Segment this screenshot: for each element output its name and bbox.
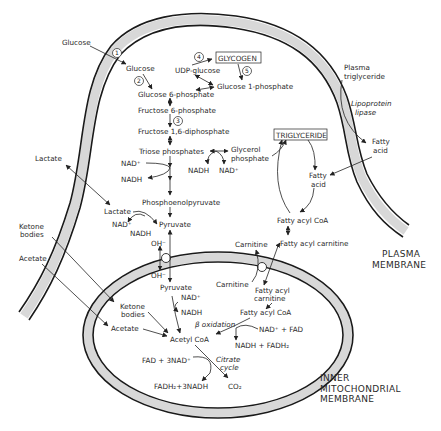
fatty-acid-line2: acid — [311, 180, 326, 189]
oh-top: OH⁻ — [151, 239, 166, 248]
acetyl-coa: Acetyl CoA — [170, 335, 209, 344]
inner-mito-label-line3: MEMBRANE — [320, 394, 374, 404]
nadh-lactate: NADH — [130, 229, 151, 238]
nad-lactate: NAD⁺ — [112, 220, 132, 229]
triglyceride-label: TRIGLYCERIDE — [275, 131, 327, 140]
fad-3nad: FAD + 3NAD⁺ — [142, 356, 191, 365]
co2: CO₂ — [228, 382, 242, 391]
fatty-acid-line1: Fatty — [309, 171, 328, 180]
lactate: Lactate — [104, 207, 131, 216]
inner-mito-label-line1: INNER — [320, 373, 350, 383]
oh-transporter-pore — [162, 254, 171, 263]
metabolism-diagram: 1 2 3 4 5 Glucose Glucose Glucose 6-phos… — [0, 0, 441, 431]
nad-fad: NAD⁺ + FAD — [259, 325, 304, 334]
glycerol-phosphate-line1: Glycerol — [231, 145, 260, 154]
step-3-marker: 3 — [174, 117, 183, 126]
carnitine-transporter-pore — [258, 263, 267, 272]
svg-text:4: 4 — [197, 53, 201, 60]
fadh2-3nadh: FADH₂+3NADH — [154, 382, 208, 391]
phosphoenolpyruvate: Phosphoenolpyruvate — [142, 198, 221, 207]
nad-triose: NAD⁺ — [121, 159, 141, 168]
plasma-triglyceride-line1: Plasma — [344, 63, 370, 72]
glucose-1-phosphate: Glucose 1-phosphate — [217, 82, 294, 91]
ketone-bodies-mito-line2: bodies — [121, 310, 145, 319]
svg-text:2: 2 — [137, 77, 141, 84]
inner-mito-label-line2: MITOCHONDRIAL — [320, 384, 401, 394]
plasma-triglyceride-line2: triglyceride — [344, 72, 385, 81]
glucose: Glucose — [126, 64, 155, 73]
nadh-triose: NADH — [121, 175, 142, 184]
lipoprotein-lipase-line1: Lipoprotein — [351, 99, 392, 108]
fatty-acyl-coa: Fatty acyl CoA — [277, 216, 328, 225]
glycerol-phosphate-line2: phosphate — [231, 154, 270, 163]
nad-mitochondrial: NAD⁺ — [181, 293, 201, 302]
pyruvate-mitochondrial: Pyruvate — [160, 283, 193, 292]
carnitine-cytosol: Carnitine — [235, 240, 268, 249]
glucose-extracellular: Glucose — [62, 38, 91, 47]
plasma-membrane-label-line2: MEMBRANE — [372, 260, 426, 270]
step-2-marker: 2 — [135, 77, 144, 86]
beta-oxidation-label: β oxidation — [195, 320, 236, 329]
ketone-bodies-extracellular-line2: bodies — [20, 230, 44, 239]
nadh-glycerol: NADH — [188, 166, 209, 175]
svg-text:5: 5 — [245, 67, 249, 74]
oh-bottom: OH⁻ — [151, 271, 166, 280]
udp-glucose: UDP-glucose — [175, 66, 221, 75]
fructose-6-phosphate: Fructose 6-phosphate — [138, 106, 217, 115]
acetate-mitochondrial: Acetate — [111, 324, 139, 333]
nadh-mitochondrial: NADH — [181, 308, 202, 317]
svg-text:3: 3 — [176, 117, 180, 124]
nadh-fadh2: NADH + FADH₂ — [235, 341, 289, 350]
fatty-acyl-carnitine-cytosol: Fatty acyl carnitine — [280, 239, 349, 248]
inner-mitochondrial-membrane — [83, 252, 353, 418]
lipoprotein-lipase-line2: lipase — [355, 108, 377, 117]
glycogen-label: GLYCOGEN — [218, 54, 257, 63]
pyruvate: Pyruvate — [159, 220, 192, 229]
step-5-marker: 5 — [243, 67, 252, 76]
step-1-marker: 1 — [113, 49, 122, 58]
citrate-cycle-line2: cycle — [220, 363, 239, 372]
nad-glycerol: NAD⁺ — [219, 166, 239, 175]
membrane-titles: PLASMA MEMBRANE INNER MITOCHONDRIAL MEMB… — [320, 249, 426, 404]
triose-phosphates: Triose phosphates — [138, 147, 204, 156]
fatty-acyl-carnitine-mito-line2: carnitine — [254, 294, 286, 303]
step-4-marker: 4 — [195, 53, 204, 62]
fatty-acyl-coa-mitochondrial: Fatty acyl CoA — [240, 308, 291, 317]
glucose-6-phosphate: Glucose 6-phosphate — [138, 90, 215, 99]
plasma-membrane-label-line1: PLASMA — [382, 249, 421, 259]
svg-text:1: 1 — [115, 49, 119, 56]
acetate-extracellular: Acetate — [19, 254, 47, 263]
fatty-acid-extracellular-line2: acid — [373, 146, 388, 155]
fructose-1-6-diphosphate: Fructose 1,6-diphosphate — [138, 127, 230, 136]
fatty-acid-extracellular-line1: Fatty — [372, 137, 391, 146]
carnitine-mitochondrial: Carnitine — [216, 280, 249, 289]
lactate-extracellular: Lactate — [35, 154, 62, 163]
plasma-membrane — [19, 14, 409, 320]
